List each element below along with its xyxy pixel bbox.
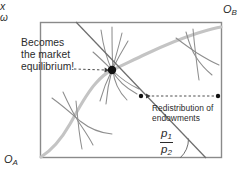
annotation-becomes-equilibrium: Becomes the market equilibrium! bbox=[21, 37, 74, 73]
edgeworth-box-figure: Becomes the market equilibrium! Redistri… bbox=[0, 0, 252, 176]
origin-b-letter: O bbox=[223, 3, 232, 15]
point-endowment-omega bbox=[216, 94, 220, 98]
origin-a-letter: O bbox=[4, 153, 13, 165]
point-new-endowment bbox=[139, 94, 143, 98]
origin-a-subscript: A bbox=[13, 158, 18, 167]
point-equilibrium-x bbox=[108, 66, 116, 74]
origin-b-subscript: B bbox=[232, 8, 237, 17]
diagram-canvas bbox=[0, 0, 252, 176]
annotation-redistribution: Redistribution of endowments bbox=[152, 104, 213, 124]
price-ratio-numerator: p1 bbox=[160, 127, 173, 141]
origin-b-label: OB bbox=[223, 3, 237, 17]
price-ratio-denominator: p2 bbox=[160, 143, 173, 157]
price-ratio-fraction: p1 p2 bbox=[160, 127, 173, 157]
price-ratio-label: p1 p2 bbox=[160, 127, 173, 157]
origin-a-label: OA bbox=[4, 153, 18, 167]
